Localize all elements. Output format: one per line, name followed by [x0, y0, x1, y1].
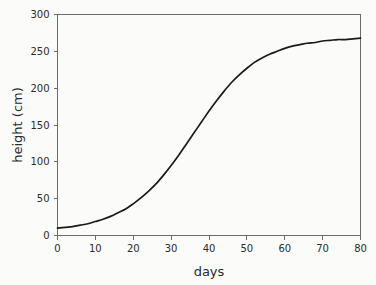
y-tick-label: 200 [30, 83, 49, 94]
x-tick-label: 30 [165, 243, 178, 254]
x-axis-title: days [194, 264, 225, 279]
x-tick-label: 50 [241, 243, 254, 254]
y-tick-label: 250 [30, 46, 49, 57]
x-tick-label: 10 [89, 243, 102, 254]
x-tick-label: 40 [203, 243, 216, 254]
y-tick-label: 300 [30, 9, 49, 20]
y-tick-label: 100 [30, 156, 49, 167]
chart-figure: 050100150200250300 01020304050607080 day… [0, 0, 376, 285]
y-axis-title: height (cm) [10, 87, 25, 163]
x-tick-label: 70 [316, 243, 329, 254]
x-tick-label: 0 [54, 243, 60, 254]
x-tick-label: 60 [278, 243, 291, 254]
y-tick-label: 50 [37, 193, 50, 204]
y-tick-label: 150 [30, 120, 49, 131]
x-tick-label: 80 [354, 243, 367, 254]
x-tick-label: 20 [127, 243, 140, 254]
y-tick-label: 0 [43, 230, 49, 241]
line-chart: 050100150200250300 01020304050607080 day… [0, 0, 376, 285]
